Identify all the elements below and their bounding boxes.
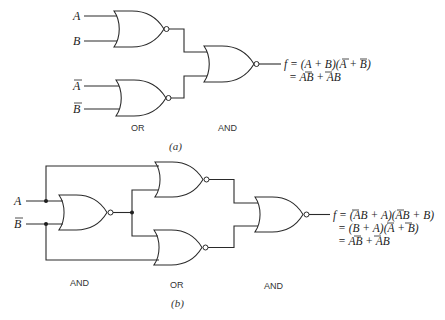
wire-b2-to-b4 (209, 180, 258, 204)
inversion-bubble (204, 177, 209, 182)
nor-gate-a1 (114, 11, 169, 47)
stage-label-and: AND (218, 123, 238, 133)
inversion-bubble (108, 210, 113, 215)
input-label-a: A (13, 194, 22, 208)
input-label-a: A (72, 9, 81, 23)
circuit-b: A B (13, 162, 434, 310)
caption-b: (b) (171, 297, 184, 310)
nor-gate-b1 (59, 195, 113, 230)
stage-label-or: OR (170, 280, 184, 290)
inversion-bubble (166, 96, 171, 101)
wire-b1-to-b3 (132, 213, 158, 237)
expression-line-1: f = (AB + A)(AB + B) (333, 209, 434, 222)
input-label-b: B (73, 34, 81, 48)
circuit-a: A B A B (72, 9, 371, 153)
wire-a-to-b2 (46, 166, 159, 201)
inversion-bubble (203, 245, 208, 250)
input-label-b-bar: B (73, 102, 82, 116)
expression-line-1: f = (A + B)(A + B) (284, 58, 371, 71)
input-label-a-bar: A (72, 79, 82, 93)
nor-gate-a3 (204, 46, 259, 82)
output-expression-a: f = (A + B)(A + B) = AB + AB (284, 58, 371, 83)
output-expression-b: f = (AB + A)(AB + B) = (B + A)(A + B) = … (333, 209, 434, 247)
nor-gate-a2 (116, 80, 171, 116)
nor-gate-b2 (155, 162, 209, 197)
expression-line-3: = AB + AB (338, 235, 390, 247)
inversion-bubble (304, 212, 309, 217)
nor-gate-b3 (154, 230, 208, 265)
caption-a: (a) (169, 140, 182, 153)
svg-text:B: B (14, 217, 22, 231)
wire-a2-to-a3 (171, 76, 207, 98)
wire-b1-to-b2 (132, 190, 158, 213)
expression-line-2: = (B + A)(A + B) (338, 222, 419, 235)
svg-text:B: B (73, 102, 81, 116)
inversion-bubble (164, 27, 169, 32)
stage-label-and-final: AND (264, 281, 284, 291)
expression-line-2: = AB + AB (289, 71, 341, 83)
stage-label-and: AND (70, 278, 90, 288)
stage-label-or: OR (131, 123, 145, 133)
input-label-b-bar: B (14, 217, 23, 231)
svg-text:A: A (72, 79, 81, 93)
wire-b3-to-b4 (208, 226, 258, 248)
nor-gate-logic-diagram: A B A B (0, 0, 445, 320)
wire-a1-to-a3 (169, 29, 207, 52)
inversion-bubble (254, 62, 259, 67)
nor-gate-b4 (255, 197, 309, 232)
